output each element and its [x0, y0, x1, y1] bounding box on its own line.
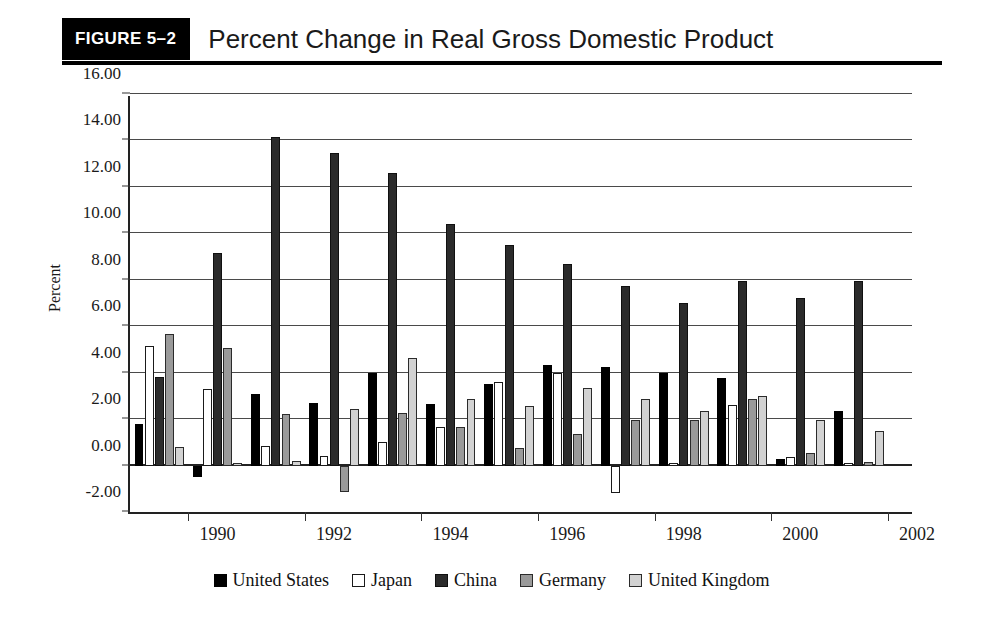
bar-us-1998	[659, 373, 668, 466]
bar-china-1996	[563, 264, 572, 466]
x-tick-mark	[305, 512, 306, 521]
x-tick-label: 1998	[666, 524, 702, 545]
bar-us-1996	[543, 365, 552, 466]
bar-us-1989	[135, 424, 144, 466]
bar-uk-1996	[583, 388, 592, 466]
bar-uk-1999	[758, 396, 767, 466]
x-tick-mark	[771, 512, 772, 521]
bar-germany-1998	[690, 420, 699, 465]
bar-germany-1994	[456, 427, 465, 465]
bar-group-2000	[776, 96, 827, 512]
bar-germany-1999	[748, 399, 757, 465]
bar-group-1993	[368, 96, 419, 512]
bar-us-1994	[426, 404, 435, 466]
bar-germany-1989	[165, 334, 174, 465]
header-rule	[62, 61, 942, 65]
bar-group-1994	[426, 96, 477, 512]
legend-item-japan[interactable]: Japan	[352, 570, 412, 591]
bar-china-2000	[796, 298, 805, 465]
bar-uk-1997	[641, 399, 650, 465]
bar-japan-1990	[203, 389, 212, 466]
y-tick-label: 12.00	[83, 157, 130, 177]
legend-item-uk[interactable]: United Kingdom	[629, 570, 770, 591]
x-tick-label: 1994	[433, 524, 469, 545]
legend-swatch-japan-icon	[352, 574, 365, 587]
y-tick-label: 8.00	[91, 250, 130, 270]
bar-japan-1991	[261, 446, 270, 466]
legend-item-us[interactable]: United States	[214, 570, 330, 591]
bar-china-1995	[505, 245, 514, 466]
legend-swatch-us-icon	[214, 574, 227, 587]
y-tick-mark	[122, 371, 130, 372]
y-tick-label: -2.00	[86, 482, 130, 502]
bar-china-1990	[213, 253, 222, 465]
x-tick-mark	[655, 512, 656, 521]
bar-uk-1998	[700, 411, 709, 466]
bar-uk-1990	[233, 463, 242, 465]
bar-germany-1993	[398, 413, 407, 465]
bar-group-1991	[251, 96, 302, 512]
x-tick-mark	[188, 512, 189, 521]
bar-uk-2000	[816, 420, 825, 465]
bar-group-1996	[543, 96, 594, 512]
chart-legend: United StatesJapanChinaGermanyUnited Kin…	[0, 570, 983, 591]
bar-uk-1993	[408, 358, 417, 466]
y-axis-title: Percent	[46, 264, 64, 312]
bar-japan-1995	[494, 382, 503, 466]
bar-us-1995	[484, 384, 493, 465]
y-tick-mark	[122, 325, 130, 326]
bar-group-1995	[484, 96, 535, 512]
legend-item-germany[interactable]: Germany	[520, 570, 606, 591]
bar-japan-1998	[669, 463, 678, 465]
bar-group-2001	[834, 96, 885, 512]
y-tick-mark	[122, 139, 130, 140]
y-tick-mark	[122, 93, 130, 94]
bar-japan-2001	[844, 463, 853, 465]
bar-group-1992	[309, 96, 360, 512]
y-tick-mark	[122, 511, 130, 512]
x-tick-label: 2000	[782, 524, 818, 545]
bar-germany-1996	[573, 434, 582, 465]
legend-label: Germany	[539, 570, 606, 591]
bar-us-2001	[834, 411, 843, 466]
bar-japan-1992	[320, 456, 329, 465]
bar-uk-1992	[350, 409, 359, 466]
y-tick-mark	[122, 232, 130, 233]
bar-japan-1999	[728, 405, 737, 465]
legend-label: United Kingdom	[648, 570, 770, 591]
bar-germany-1997	[631, 420, 640, 465]
bar-germany-1995	[515, 448, 524, 465]
plot-region: 16.0014.0012.0010.008.006.004.002.000.00…	[128, 96, 912, 514]
bar-china-1991	[271, 137, 280, 466]
bar-group-1999	[717, 96, 768, 512]
figure-number-badge: FIGURE 5–2	[62, 18, 190, 60]
bar-japan-2000	[786, 457, 795, 465]
y-tick-mark	[122, 418, 130, 419]
bar-group-1989	[135, 96, 186, 512]
bar-china-1998	[679, 303, 688, 466]
legend-label: United States	[233, 570, 330, 591]
y-tick-mark	[122, 464, 130, 465]
y-tick-mark	[122, 278, 130, 279]
gridline	[130, 93, 912, 94]
bar-us-1999	[717, 378, 726, 465]
bar-group-1998	[659, 96, 710, 512]
legend-label: China	[454, 570, 497, 591]
x-tick-mark	[538, 512, 539, 521]
bar-china-1994	[446, 224, 455, 466]
bar-china-1989	[155, 377, 164, 465]
bar-us-1993	[368, 373, 377, 466]
bar-china-1993	[388, 173, 397, 466]
legend-item-china[interactable]: China	[435, 570, 497, 591]
bar-japan-1996	[553, 373, 562, 466]
bar-uk-1995	[525, 406, 534, 465]
bar-uk-1989	[175, 447, 184, 466]
bar-us-2000	[776, 459, 785, 466]
figure-title: Percent Change in Real Gross Domestic Pr…	[190, 18, 773, 60]
x-tick-label: 1996	[549, 524, 585, 545]
bar-uk-2001	[875, 431, 884, 466]
y-tick-label: 2.00	[91, 389, 130, 409]
legend-label: Japan	[371, 570, 412, 591]
bar-china-1997	[621, 286, 630, 466]
bar-germany-1990	[223, 348, 232, 465]
